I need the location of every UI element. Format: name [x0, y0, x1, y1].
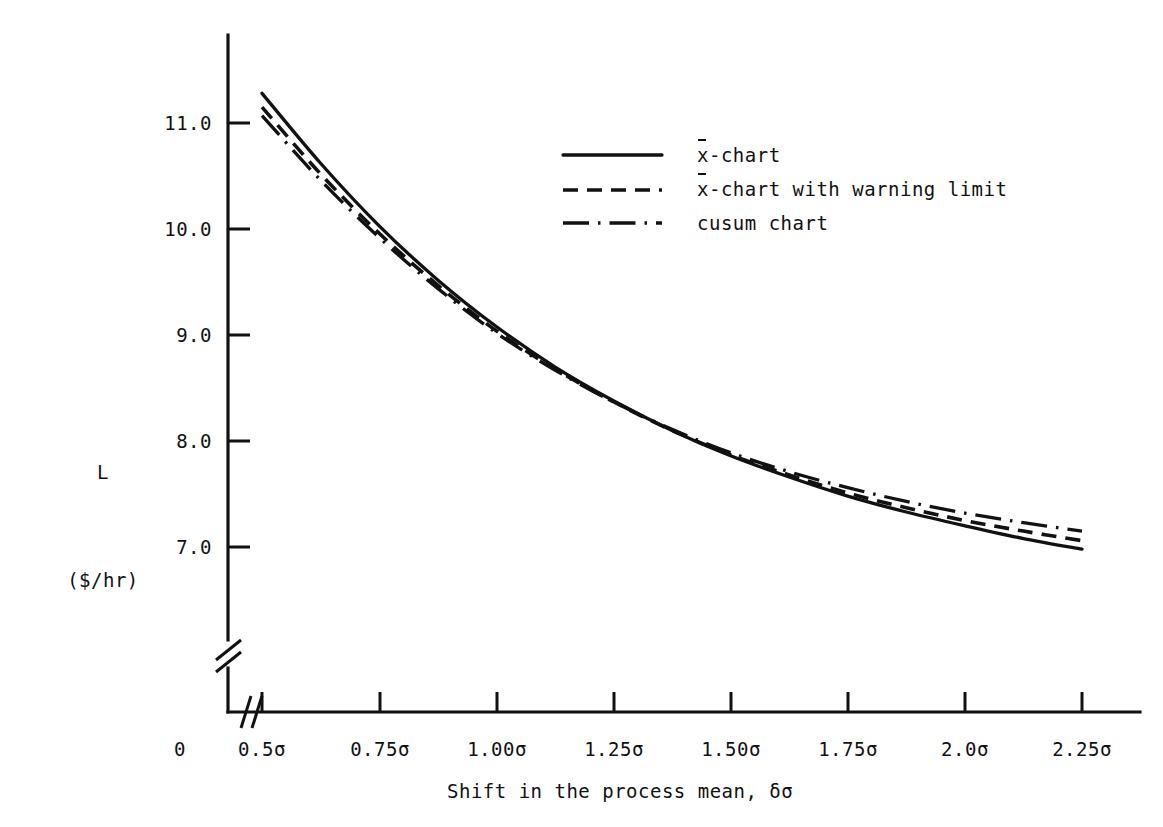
- x-tick-label-origin: 0: [150, 738, 210, 760]
- legend-overbar-2: x: [697, 178, 709, 200]
- x-tick-label-1p25: 1.25σ: [554, 738, 674, 760]
- y-axis-title-line2: ($/hr): [38, 562, 168, 598]
- x-tick-label-1p75: 1.75σ: [788, 738, 908, 760]
- legend-label-text-3: usum chart: [709, 212, 828, 234]
- series-line-xbar-chart-warning-limit: [262, 107, 1082, 541]
- y-axis-title: L ($/hr): [38, 382, 168, 671]
- series-line-xbar-chart: [262, 93, 1082, 549]
- figure-canvas: 11.0 10.0 9.0 8.0 7.0 L ($/hr) 0 0.5σ 0.…: [0, 0, 1163, 827]
- legend-label-cusum-chart: cusum chart: [697, 212, 828, 234]
- x-axis-title: Shift in the process mean, δσ: [447, 780, 793, 802]
- x-tick-label-2p0: 2.0σ: [908, 738, 1022, 760]
- legend-label-text-3a: c: [697, 212, 709, 234]
- x-tick-label-0p75: 0.75σ: [320, 738, 440, 760]
- y-axis-title-line1: L: [38, 454, 168, 490]
- y-tick-label-9: 9.0: [128, 324, 212, 346]
- x-tick-label-2p25: 2.25σ: [1022, 738, 1142, 760]
- x-tick-label-1p50: 1.50σ: [671, 738, 791, 760]
- legend-label-text-2: -chart with warning limit: [709, 178, 1007, 200]
- legend-label-xbar-chart-warning: x-chart with warning limit: [697, 178, 1007, 200]
- y-tick-label-11: 11.0: [128, 112, 212, 134]
- legend-label-xbar-chart: x-chart: [697, 144, 781, 166]
- y-axis-break-mark-1: [216, 640, 241, 660]
- legend-label-text-1: -chart: [709, 144, 781, 166]
- x-tick-label-0p5: 0.5σ: [212, 738, 312, 760]
- legend-overbar-1: x: [697, 144, 709, 166]
- x-tick-label-1p00: 1.00σ: [437, 738, 557, 760]
- y-tick-label-10: 10.0: [128, 218, 212, 240]
